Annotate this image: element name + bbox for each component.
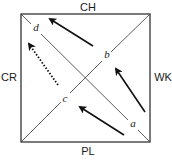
label-cr: CR	[1, 71, 17, 83]
point-label-d: d	[33, 21, 39, 33]
label-pl: PL	[81, 145, 94, 157]
point-label-b: b	[104, 48, 110, 60]
arrow-bottom-icon	[80, 107, 124, 135]
diagram-canvas: CH PL CR WK d b c a	[0, 0, 172, 160]
arrow-dotted-icon	[29, 44, 58, 85]
arrow-top-icon	[50, 19, 93, 46]
arrow-right-icon	[116, 69, 145, 112]
label-wk: WK	[154, 71, 172, 83]
point-label-a: a	[130, 117, 136, 129]
label-ch: CH	[80, 1, 96, 13]
point-label-c: c	[63, 92, 68, 104]
